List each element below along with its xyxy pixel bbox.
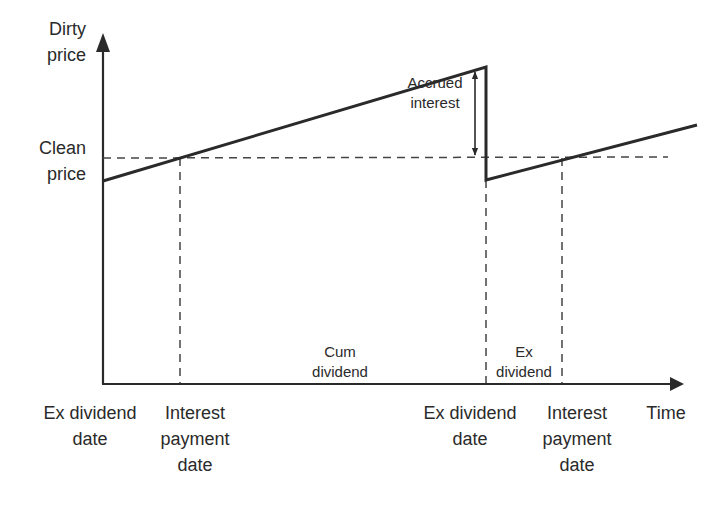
xl4-line3: date	[527, 452, 627, 478]
xl2-line3: date	[145, 452, 245, 478]
x-label-ex-dividend-date-1: Ex dividend date	[30, 400, 150, 452]
accrued-line2: interest	[400, 93, 470, 113]
y-label-dirty-line2: price	[30, 42, 86, 68]
xl2-line1: Interest	[145, 400, 245, 426]
y-label-clean-line1: Clean	[20, 135, 86, 161]
xl2-line2: payment	[145, 426, 245, 452]
x-label-ex-dividend-date-2: Ex dividend date	[410, 400, 530, 452]
accrued-interest-label: Accrued interest	[400, 73, 470, 113]
xl4-line1: Interest	[527, 400, 627, 426]
x-axis-arrow-icon	[670, 377, 684, 391]
y-axis-arrow-icon	[96, 33, 110, 52]
cum-dividend-label: Cum dividend	[300, 342, 380, 382]
ex-line2: dividend	[486, 362, 562, 382]
ex-dividend-region-label: Ex dividend	[486, 342, 562, 382]
cum-line2: dividend	[300, 362, 380, 382]
xl1-line2: date	[30, 426, 150, 452]
y-label-dirty-line1: Dirty	[30, 16, 86, 42]
xl1-line1: Ex dividend	[30, 400, 150, 426]
y-label-dirty-price: Dirty price	[30, 16, 86, 68]
ex-line1: Ex	[486, 342, 562, 362]
y-label-clean-line2: price	[20, 161, 86, 187]
x-label-interest-payment-date-1: Interest payment date	[145, 400, 245, 478]
accrued-line1: Accrued	[400, 73, 470, 93]
y-label-clean-price: Clean price	[20, 135, 86, 187]
cum-line1: Cum	[300, 342, 380, 362]
xl3-line1: Ex dividend	[410, 400, 530, 426]
x-axis-label-time: Time	[636, 400, 696, 426]
xl3-line2: date	[410, 426, 530, 452]
xl4-line2: payment	[527, 426, 627, 452]
x-label-interest-payment-date-2: Interest payment date	[527, 400, 627, 478]
